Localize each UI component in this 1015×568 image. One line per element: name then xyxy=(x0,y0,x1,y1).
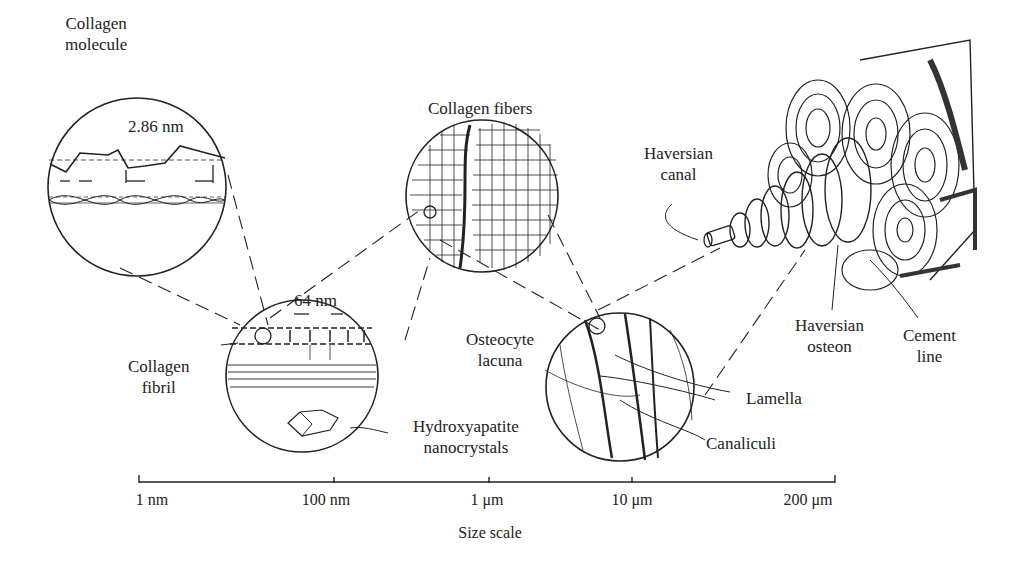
haversian-canal-pointer xyxy=(665,204,698,240)
scale-tick-100nm: 100 nm xyxy=(302,491,350,509)
label-lamella: Lamella xyxy=(746,388,802,409)
collagen-fibril-circle xyxy=(221,300,388,452)
scale-tick-1nm: 1 nm xyxy=(136,491,168,509)
label-collagen-fibers: Collagen fibers xyxy=(428,98,532,119)
label-haversian-canal: Haversian canal xyxy=(644,143,713,185)
size-scale-bar xyxy=(139,475,835,483)
label-cement-line: Cement line xyxy=(903,325,956,367)
scale-tick-1um: 1 μm xyxy=(470,491,503,509)
haversian-osteon-pointer xyxy=(832,245,838,310)
label-haversian-osteon: Haversian osteon xyxy=(795,315,864,357)
label-hydroxyapatite: Hydroxyapatite nanocrystals xyxy=(413,416,519,458)
scale-tick-200um: 200 μm xyxy=(783,491,832,509)
bone-hierarchy-drawing xyxy=(0,0,1015,568)
label-osteocyte-lacuna: Osteocyte lacuna xyxy=(466,329,534,371)
lamella-circle xyxy=(545,313,715,461)
label-collagen-fibril: Collagen fibril xyxy=(128,356,189,398)
label-collagen-molecule: Collagen molecule xyxy=(65,13,127,55)
scale-tick-10um: 10 μm xyxy=(611,491,652,509)
collagen-fibers-circle xyxy=(406,120,558,272)
osteon-bundle xyxy=(704,40,975,290)
label-fibril-period: 64 nm xyxy=(294,290,337,311)
label-canaliculi: Canaliculi xyxy=(706,433,776,454)
scale-title: Size scale xyxy=(458,524,522,542)
label-molecule-spacing: 2.86 nm xyxy=(128,116,184,137)
